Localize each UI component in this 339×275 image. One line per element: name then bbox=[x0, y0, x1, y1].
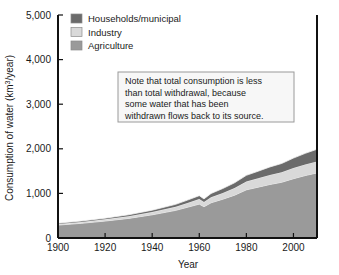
water-consumption-chart: 190019201940196019802000 01,0002,0003,00… bbox=[0, 0, 339, 275]
x-tick-label-1900: 1900 bbox=[47, 242, 70, 253]
legend-swatch-agriculture bbox=[71, 41, 82, 50]
y-tick-label-5000: 5,000 bbox=[26, 10, 51, 21]
x-tick-label-1960: 1960 bbox=[188, 242, 211, 253]
y-tick-label-0: 0 bbox=[45, 233, 51, 244]
x-tick-label-1920: 1920 bbox=[94, 242, 117, 253]
stacked-area-series bbox=[58, 149, 317, 238]
legend-swatch-industry bbox=[71, 28, 82, 37]
legend-label-industry: Industry bbox=[88, 27, 122, 38]
chart-legend: Households/municipalIndustryAgriculture bbox=[71, 13, 181, 51]
legend-label-households-municipal: Households/municipal bbox=[88, 13, 181, 24]
x-tick-label-1940: 1940 bbox=[141, 242, 164, 253]
y-tick-label-4000: 4,000 bbox=[26, 54, 51, 65]
y-tick-label-2000: 2,000 bbox=[26, 143, 51, 154]
x-axis-title: Year bbox=[178, 259, 199, 270]
y-tick-label-1000: 1,000 bbox=[26, 188, 51, 199]
legend-swatch-households-municipal bbox=[71, 14, 82, 23]
chart-annotations: Note that total consumption is lessthan … bbox=[118, 72, 294, 122]
y-axis-tick-labels: 01,0002,0003,0004,0005,000 bbox=[26, 10, 51, 244]
chart-canvas: 190019201940196019802000 01,0002,0003,00… bbox=[0, 0, 339, 275]
x-axis-tick-labels: 190019201940196019802000 bbox=[47, 242, 305, 253]
y-axis-title: Consumption of water (km3/year) bbox=[4, 55, 15, 201]
x-tick-label-2000: 2000 bbox=[282, 242, 305, 253]
y-tick-label-3000: 3,000 bbox=[26, 99, 51, 110]
legend-label-agriculture: Agriculture bbox=[88, 40, 133, 51]
x-tick-label-1980: 1980 bbox=[235, 242, 258, 253]
